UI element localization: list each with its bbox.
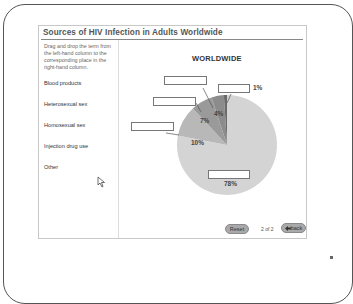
panel-title: Sources of HIV Infection in Adults World… [43,28,223,37]
terms-column: Drag and drop the term from the left-han… [39,40,119,238]
instructions-text: Drag and drop the term from the left-han… [44,43,118,71]
term-injection-drug-use[interactable]: Injection drug use [44,143,88,149]
corner-mark [330,256,333,259]
term-heterosexual-sex[interactable]: Heterosexual sex [44,101,87,107]
mouse-cursor-icon [97,176,107,188]
drop-target-78pct[interactable] [208,170,250,179]
label-10pct: 10% [191,139,204,146]
term-blood-products[interactable]: Blood products [44,80,81,86]
activity-panel: Sources of HIV Infection in Adults World… [38,25,307,239]
term-homosexual-sex[interactable]: Homosexual sex [44,122,85,128]
label-1pct: 1% [253,84,262,91]
term-other[interactable]: Other [44,164,58,170]
back-arrow-icon [285,226,291,231]
label-78pct: 78% [224,180,237,187]
label-7pct: 7% [200,117,209,124]
drop-target-1pct[interactable] [218,84,250,93]
back-label: back [291,225,303,231]
back-button[interactable]: back [281,223,306,233]
chart-title: WORLDWIDE [192,54,242,63]
drop-target-10pct[interactable] [131,122,174,131]
drop-target-7pct[interactable] [153,97,196,106]
page-indicator: 2 of 2 [261,226,274,232]
reset-button[interactable]: Reset [225,224,249,234]
label-4pct: 4% [214,110,223,117]
drop-target-4pct[interactable] [164,76,207,85]
